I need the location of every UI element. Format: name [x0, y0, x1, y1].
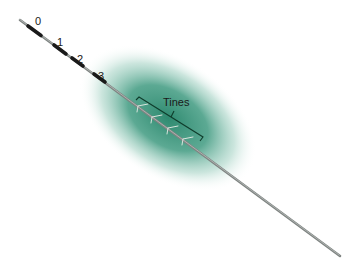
depth-marker-1: 1 [57, 36, 63, 48]
electrode-band-0 [28, 26, 41, 36]
depth-marker-2: 2 [77, 53, 83, 65]
depth-marker-3: 3 [98, 70, 104, 82]
lead-diagram: 0 1 2 3 Tines [0, 0, 353, 268]
depth-marker-0: 0 [35, 15, 41, 27]
tissue-glow [53, 14, 283, 221]
electrode-bands [28, 26, 105, 82]
tines-label: Tines [163, 96, 190, 108]
